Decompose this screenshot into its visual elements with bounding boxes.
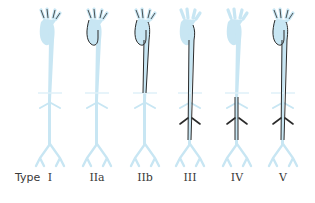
aorta-type-i xyxy=(36,9,64,166)
type-label-iv: IV xyxy=(231,171,243,184)
type-heading: Type xyxy=(15,171,40,184)
aorta-type-iii xyxy=(176,9,204,166)
type-label-v: V xyxy=(279,171,287,184)
type-label-iii: III xyxy=(183,171,196,184)
aorta-type-iia xyxy=(83,9,111,166)
type-label-i: I xyxy=(48,171,52,184)
aorta-type-v xyxy=(269,9,297,166)
aorta-type-iv xyxy=(223,9,251,166)
type-label-iib: IIb xyxy=(137,171,153,184)
aorta-type-iib xyxy=(131,9,159,166)
type-label-iia: IIa xyxy=(89,171,104,184)
